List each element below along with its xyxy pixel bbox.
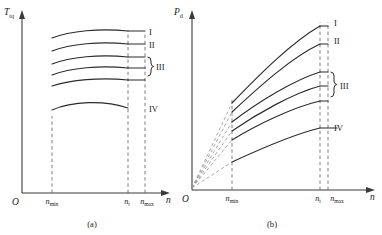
panel-a-origin-label: O [12, 197, 19, 207]
panel-a-brace-III [148, 57, 154, 76]
panel-b-curve-1 [232, 26, 320, 103]
panel-b-curve-2 [232, 44, 320, 112]
panel-b-tick-nmax: nmax [330, 194, 344, 204]
panel-b-tick-nt-sub: t [319, 198, 321, 204]
panel-a-curve-5 [52, 79, 128, 86]
panel-b-label-IV: IV [334, 123, 344, 133]
panel-a-x-axis [22, 190, 170, 196]
panel-a-label-IV: IV [149, 104, 159, 114]
panel-b-tick-nmin: nmin [226, 194, 239, 204]
panel-a-curve-2 [52, 43, 128, 51]
panel-b-projection-3 [192, 122, 232, 188]
panel-a-label-III: III [156, 62, 165, 72]
panel-a-curve-tails [128, 31, 145, 80]
figure-svg: Ttq n O nmin nt nmax [0, 0, 382, 235]
panel-b-x-axis-label: n [370, 192, 375, 202]
panel-a-tick-nt-sub: t [128, 201, 130, 207]
panel-b-projection-5 [192, 140, 232, 188]
panel-a-curve-1 [52, 30, 128, 38]
panel-a-curve-4 [52, 67, 128, 75]
panel-b-y-axis-subscript: d [180, 12, 184, 19]
panel-b-curves [232, 26, 320, 162]
panel-b-tick-nmin-sub: min [230, 198, 239, 204]
figure-root: Ttq n O nmin nt nmax [0, 0, 382, 235]
panel-a-tick-nmin: nmin [46, 197, 59, 207]
panel-b-y-axis [189, 10, 195, 190]
panel-a: Ttq n O nmin nt nmax [4, 7, 171, 207]
panel-a-tick-nmax-sub: max [144, 201, 154, 207]
panel-b-curve-6 [232, 128, 320, 162]
panel-b-label-II: II [334, 36, 340, 46]
panel-b: Pd n O nmin nt nmax [173, 7, 375, 204]
panel-a-curve-6 [52, 103, 128, 110]
panel-b-origin-label: O [182, 194, 189, 204]
panel-a-y-axis [19, 10, 25, 193]
panel-b-label-III: III [340, 81, 349, 91]
panel-b-projection-2 [192, 112, 232, 188]
panel-b-y-axis-arrow [189, 10, 195, 19]
panel-b-caption: (b) [267, 219, 277, 229]
panel-a-x-axis-label: n [166, 195, 171, 205]
panel-a-curve-3 [52, 56, 128, 64]
panel-b-projection-4 [192, 131, 232, 188]
panel-b-tick-nt: nt [315, 194, 321, 204]
panel-b-curve-3 [232, 72, 320, 122]
panel-b-label-I: I [334, 18, 337, 28]
panel-a-label-II: II [149, 40, 155, 50]
panel-a-caption: (a) [87, 219, 97, 229]
panel-a-tick-nmax: nmax [140, 197, 154, 207]
panel-b-tick-nmax-sub: max [334, 198, 344, 204]
panel-b-brace-III [331, 72, 337, 97]
panel-a-y-axis-arrow [19, 10, 25, 19]
panel-a-curves [52, 30, 128, 110]
panel-b-x-axis [192, 187, 375, 193]
panel-a-tick-nt: nt [124, 197, 130, 207]
panel-a-y-axis-label: Ttq [4, 7, 14, 19]
panel-a-label-I: I [149, 27, 152, 37]
panel-a-tick-nmin-sub: min [50, 201, 59, 207]
panel-b-curve-5 [232, 101, 320, 140]
panel-b-y-axis-label: Pd [173, 7, 184, 19]
panel-a-y-axis-subscript: tq [9, 12, 14, 19]
panel-b-projections [192, 103, 232, 188]
